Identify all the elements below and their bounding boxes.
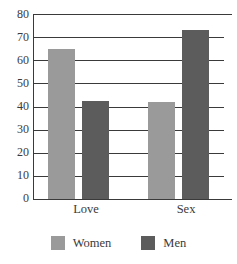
plot-area — [33, 14, 224, 199]
bar-sex-women[interactable] — [148, 102, 175, 199]
legend-label-men: Men — [163, 237, 186, 250]
legend-item-women[interactable]: Women — [51, 236, 112, 250]
y-tick-label-70: 70 — [5, 31, 29, 43]
y-tick-label-60: 60 — [5, 54, 29, 66]
legend-swatch-men-icon — [141, 236, 155, 250]
x-axis-label-sex: Sex — [156, 203, 216, 216]
y-tick-label-20: 20 — [5, 146, 29, 158]
y-tick-label-40: 40 — [5, 100, 29, 112]
legend-label-women: Women — [73, 237, 112, 250]
y-tick-label-30: 30 — [5, 123, 29, 135]
x-axis-baseline — [33, 199, 232, 200]
x-axis-label-love: Love — [56, 203, 116, 216]
legend-item-men[interactable]: Men — [141, 236, 186, 250]
y-tick-label-0: 0 — [5, 192, 29, 204]
bar-love-men[interactable] — [82, 101, 109, 199]
gridline-80 — [33, 14, 232, 15]
bar-chart: 80 70 60 50 40 30 20 10 0 Love Sex — [0, 0, 237, 264]
y-tick-label-10: 10 — [5, 169, 29, 181]
chart-legend: Women Men — [0, 236, 237, 250]
bar-sex-men[interactable] — [182, 30, 209, 199]
bar-love-women[interactable] — [48, 49, 75, 199]
y-tick-label-50: 50 — [5, 77, 29, 89]
y-tick-label-80: 80 — [5, 8, 29, 20]
legend-swatch-women-icon — [51, 236, 65, 250]
